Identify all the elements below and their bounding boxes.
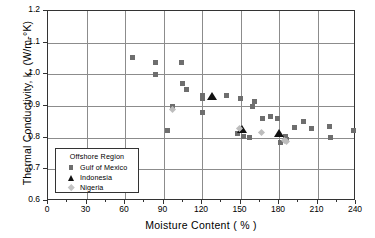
x-tick-label: 210 <box>297 204 337 214</box>
data-point <box>309 126 314 131</box>
data-point <box>328 135 333 140</box>
gridline-horizontal <box>48 74 354 75</box>
data-point <box>301 119 306 124</box>
y-tick-label: 0.7 <box>2 162 40 172</box>
x-tick-minor <box>259 200 260 202</box>
legend-item-nigeria[interactable]: Nigeria <box>56 183 138 193</box>
data-point <box>274 129 284 137</box>
gridline-vertical <box>202 11 203 199</box>
x-tick-label: 150 <box>220 204 260 214</box>
y-tick-label: 1.1 <box>2 36 40 46</box>
x-tick-minor <box>143 200 144 202</box>
gridline-horizontal <box>48 43 354 44</box>
x-tick-minor <box>336 200 337 202</box>
data-point <box>252 99 257 104</box>
legend-title: Offshore Region <box>56 152 138 161</box>
diamond-marker-icon <box>65 185 77 190</box>
gridline-vertical <box>241 11 242 199</box>
y-tick-label: 0.6 <box>2 194 40 204</box>
data-point <box>275 116 280 121</box>
y-tick <box>43 200 47 201</box>
data-point <box>200 96 205 101</box>
data-point <box>184 87 189 92</box>
triangle-marker-icon <box>65 175 77 181</box>
data-point <box>153 72 158 77</box>
data-point <box>165 128 170 133</box>
data-point <box>260 116 265 121</box>
legend-item-gulf-of-mexico[interactable]: Gulf of Mexico <box>56 163 138 173</box>
data-point <box>257 129 264 136</box>
gridline-horizontal <box>48 138 354 139</box>
data-point <box>241 134 246 139</box>
x-tick-label: 60 <box>104 204 144 214</box>
y-tick-label: 0.8 <box>2 131 40 141</box>
chart-figure: Thermal Conductivity, k, (W/m-°K) Moistu… <box>0 0 375 238</box>
y-tick <box>43 168 47 169</box>
x-tick-label: 30 <box>66 204 106 214</box>
y-tick <box>43 42 47 43</box>
y-tick <box>43 73 47 74</box>
marker-glyph <box>69 165 74 170</box>
marker-glyph <box>68 184 74 190</box>
x-tick-minor <box>297 200 298 202</box>
x-tick-minor <box>182 200 183 202</box>
data-point <box>238 96 243 101</box>
data-point <box>351 128 356 133</box>
data-point <box>207 92 217 100</box>
data-point <box>327 124 332 129</box>
gridline-vertical <box>279 11 280 199</box>
legend-item-indonesia[interactable]: Indonesia <box>56 173 138 183</box>
gridline-horizontal <box>48 106 354 107</box>
legend-entries: Gulf of MexicoIndonesiaNigeria <box>56 163 138 193</box>
y-tick <box>43 105 47 106</box>
gridline-vertical <box>318 11 319 199</box>
data-point <box>250 104 255 109</box>
y-tick <box>43 10 47 11</box>
x-tick-minor <box>220 200 221 202</box>
data-point <box>180 81 185 86</box>
gridline-vertical <box>164 11 165 199</box>
legend-label: Nigeria <box>77 183 103 192</box>
legend: Offshore Region Gulf of MexicoIndonesiaN… <box>55 148 139 193</box>
y-tick <box>43 137 47 138</box>
legend-label: Gulf of Mexico <box>77 163 127 172</box>
x-tick-minor <box>105 200 106 202</box>
x-tick-label: 240 <box>335 204 375 214</box>
x-tick-label: 180 <box>258 204 298 214</box>
y-tick-label: 0.9 <box>2 99 40 109</box>
data-point <box>130 55 135 60</box>
legend-label: Indonesia <box>77 173 112 182</box>
data-point <box>224 93 229 98</box>
y-tick-label: 1.2 <box>2 4 40 14</box>
y-tick-label: 1.0 <box>2 67 40 77</box>
x-tick-label: 90 <box>143 204 183 214</box>
data-point <box>292 125 297 130</box>
x-tick-label: 120 <box>181 204 221 214</box>
data-point <box>153 60 158 65</box>
data-point <box>268 114 273 119</box>
x-axis-title: Moisture Content ( % ) <box>47 219 355 231</box>
data-point <box>200 110 205 115</box>
data-point <box>179 60 184 65</box>
x-tick-minor <box>66 200 67 202</box>
marker-glyph <box>68 175 74 181</box>
square-marker-icon <box>65 165 77 170</box>
x-tick-label: 0 <box>27 204 67 214</box>
data-point <box>247 135 252 140</box>
